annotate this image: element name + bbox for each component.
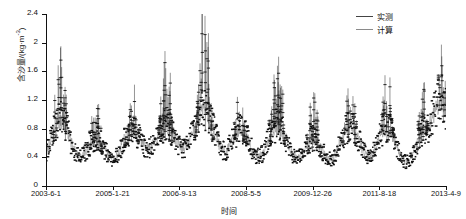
data-marker <box>142 135 145 137</box>
data-marker <box>339 149 341 151</box>
data-marker <box>115 159 117 161</box>
data-marker <box>402 158 404 160</box>
data-marker <box>162 136 165 138</box>
data-marker <box>139 129 141 131</box>
data-marker <box>313 127 315 129</box>
y-tick-mark <box>42 157 46 158</box>
data-marker <box>146 156 148 158</box>
data-marker <box>289 137 291 139</box>
data-marker <box>141 145 144 147</box>
y-tick-label: 2 <box>0 37 38 46</box>
data-marker <box>432 133 434 135</box>
data-marker <box>199 107 202 109</box>
legend-label-calculated: 计算 <box>377 24 393 35</box>
data-marker <box>113 161 116 163</box>
data-marker <box>423 125 425 127</box>
data-marker <box>190 143 192 145</box>
data-marker <box>258 160 261 162</box>
data-marker <box>117 159 119 161</box>
legend-swatch-calculated <box>356 29 373 30</box>
data-marker <box>244 120 247 122</box>
data-marker <box>380 141 382 143</box>
data-marker <box>410 156 412 158</box>
data-marker <box>145 145 147 147</box>
data-marker <box>245 145 247 147</box>
data-marker <box>197 131 199 133</box>
data-marker <box>83 150 85 152</box>
data-marker <box>85 146 88 148</box>
data-marker <box>420 123 422 125</box>
data-marker <box>152 153 154 155</box>
data-marker <box>56 137 58 139</box>
data-marker <box>132 125 135 127</box>
data-marker <box>52 125 54 127</box>
data-marker <box>146 147 148 149</box>
data-marker <box>278 131 280 133</box>
data-marker <box>210 129 213 131</box>
data-marker <box>198 124 201 126</box>
data-marker <box>77 154 80 156</box>
data-marker <box>394 144 396 146</box>
data-marker <box>192 125 194 127</box>
data-marker <box>68 120 70 122</box>
data-marker <box>320 151 322 153</box>
y-tick-mark <box>42 100 46 101</box>
data-marker <box>232 147 234 149</box>
data-marker <box>378 147 380 149</box>
data-marker <box>280 143 282 145</box>
data-marker <box>255 151 258 153</box>
data-marker <box>75 150 77 152</box>
data-marker <box>210 115 212 117</box>
data-marker <box>383 119 385 121</box>
data-marker <box>107 159 110 161</box>
data-marker <box>113 156 115 158</box>
data-marker <box>432 112 434 114</box>
data-marker <box>203 119 205 121</box>
data-marker <box>153 149 155 151</box>
y-tick-mark <box>42 14 46 15</box>
data-marker <box>76 160 78 162</box>
data-marker <box>237 125 239 127</box>
data-marker <box>264 154 267 156</box>
x-tick-label: 2013-4-9 <box>411 189 466 198</box>
data-marker <box>272 142 274 144</box>
x-tick-label: 2005-1-21 <box>78 189 148 198</box>
data-marker <box>137 143 139 145</box>
data-marker <box>211 108 214 110</box>
data-marker <box>384 112 386 114</box>
data-marker <box>55 113 58 115</box>
data-marker <box>430 122 433 124</box>
data-marker <box>336 146 338 148</box>
data-marker <box>127 144 129 146</box>
data-marker <box>203 125 205 127</box>
data-marker <box>247 137 249 139</box>
data-marker <box>211 120 214 122</box>
data-marker <box>170 144 172 146</box>
data-marker <box>103 143 105 145</box>
data-marker <box>294 161 296 163</box>
data-marker <box>117 162 119 164</box>
data-marker <box>103 158 105 160</box>
data-marker <box>394 134 396 136</box>
data-marker <box>150 136 152 138</box>
data-marker <box>206 112 209 114</box>
data-marker <box>261 145 264 147</box>
data-marker <box>437 96 439 98</box>
data-marker <box>444 115 446 117</box>
data-marker <box>93 150 96 152</box>
data-marker <box>315 136 317 138</box>
data-marker <box>437 79 440 81</box>
data-marker <box>331 154 334 156</box>
data-marker <box>360 138 362 140</box>
data-marker <box>306 138 308 140</box>
data-marker <box>420 142 423 144</box>
data-marker <box>252 155 254 157</box>
data-marker <box>259 149 261 151</box>
data-marker <box>141 149 144 151</box>
data-marker <box>228 135 230 137</box>
data-marker <box>80 161 82 163</box>
data-marker <box>130 135 133 137</box>
data-marker <box>165 125 168 127</box>
data-marker <box>238 141 241 143</box>
data-marker <box>234 137 237 139</box>
